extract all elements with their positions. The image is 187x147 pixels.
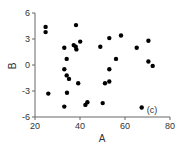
data-points <box>43 23 155 110</box>
data-point <box>43 25 47 29</box>
data-point <box>65 91 69 95</box>
data-point <box>140 105 144 109</box>
data-point <box>76 81 80 85</box>
scatter-chart: 20406080630-3-6 A B (c) <box>0 0 187 147</box>
data-point <box>65 57 69 61</box>
y-tick-label: 6 <box>25 8 30 18</box>
x-tick-label: 60 <box>120 121 130 131</box>
data-point <box>74 47 78 51</box>
data-point <box>103 81 107 85</box>
y-tick-label: -3 <box>22 86 30 96</box>
data-point <box>107 36 111 40</box>
data-point <box>119 33 123 37</box>
data-point <box>74 23 78 27</box>
x-tick-label: 80 <box>165 121 175 131</box>
y-tick-label: 3 <box>25 34 30 44</box>
y-tick-label: 0 <box>25 60 30 70</box>
panel-annotation: (c) <box>147 105 158 115</box>
data-point <box>43 30 47 34</box>
data-point <box>146 59 150 63</box>
data-point <box>107 79 111 83</box>
data-point <box>85 100 89 104</box>
data-point <box>151 64 155 68</box>
data-point <box>146 39 150 43</box>
data-point <box>78 39 82 43</box>
data-point <box>101 101 105 105</box>
data-point <box>98 45 102 49</box>
data-point <box>62 104 66 108</box>
data-point <box>135 46 139 50</box>
y-tick-label: -6 <box>22 112 30 122</box>
x-tick-label: 40 <box>75 121 85 131</box>
data-point <box>67 77 71 81</box>
data-point <box>46 91 50 95</box>
x-axis-label: A <box>99 133 106 144</box>
data-point <box>114 57 118 61</box>
y-axis-label: B <box>7 62 18 69</box>
chart-canvas: 20406080630-3-6 A B (c) <box>0 0 187 147</box>
x-tick-label: 20 <box>30 121 40 131</box>
data-point <box>62 67 66 71</box>
data-point <box>62 46 66 50</box>
data-point <box>107 67 111 71</box>
